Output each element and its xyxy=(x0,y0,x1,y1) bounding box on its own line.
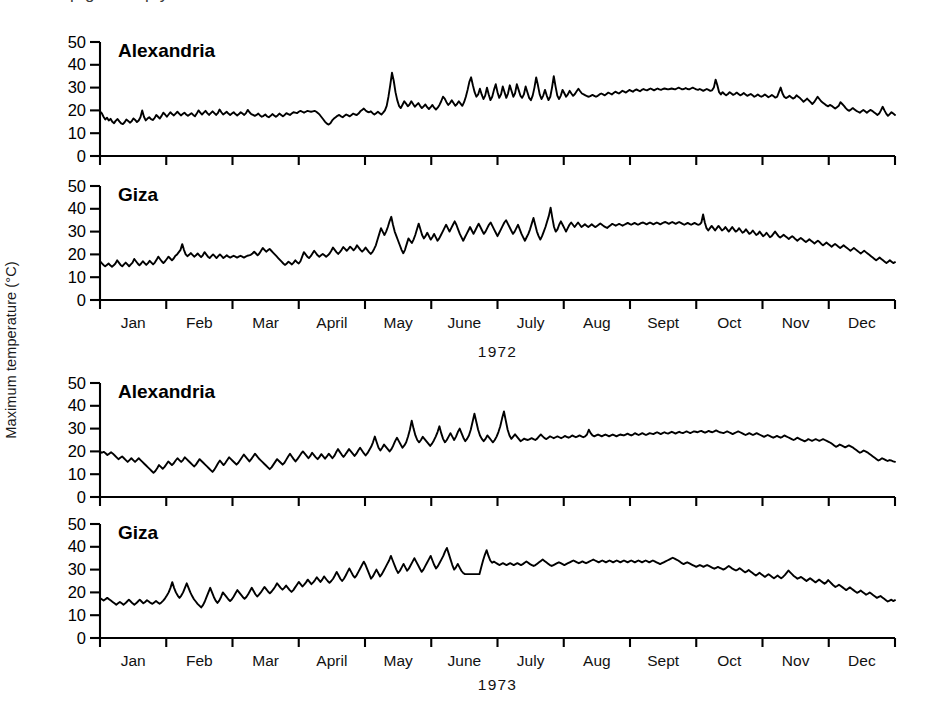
y-tick-label: 0 xyxy=(77,488,86,506)
y-tick-label: 20 xyxy=(68,583,86,601)
x-tick-label-may: May xyxy=(383,652,413,669)
y-tick-label: 30 xyxy=(68,222,86,240)
y-tick-label: 20 xyxy=(68,442,86,460)
y-tick-label: 0 xyxy=(77,629,86,647)
x-tick-label-nov: Nov xyxy=(782,314,810,331)
series-line-giza-1972 xyxy=(100,208,895,267)
panel-giza-1972: 50403020100JanFebMarAprilMayJuneJulyAugS… xyxy=(68,177,895,332)
x-tick-label-june: June xyxy=(448,314,482,331)
y-tick-label: 10 xyxy=(68,124,86,142)
x-tick-label-mar: Mar xyxy=(252,652,279,669)
x-tick-label-june: June xyxy=(448,652,482,669)
y-tick-label: 40 xyxy=(68,55,86,73)
y-tick-label: 50 xyxy=(68,374,86,392)
y-tick-label: 40 xyxy=(68,396,86,414)
x-tick-label-aug: Aug xyxy=(583,652,611,669)
x-tick-label-dec: Dec xyxy=(848,652,876,669)
y-tick-label: 30 xyxy=(68,419,86,437)
x-tick-label-sept: Sept xyxy=(647,652,680,669)
series-line-giza-1973 xyxy=(100,548,895,608)
temperature-time-series-figure: 50403020100Alexandria50403020100JanFebMa… xyxy=(0,0,932,723)
series-line-alexandria-1972 xyxy=(100,73,895,125)
y-tick-label: 20 xyxy=(68,245,86,263)
chart-svg: 50403020100Alexandria50403020100JanFebMa… xyxy=(0,0,932,723)
x-tick-label-sept: Sept xyxy=(647,314,680,331)
y-tick-label: 30 xyxy=(68,560,86,578)
x-tick-label-july: July xyxy=(517,314,545,331)
x-tick-label-oct: Oct xyxy=(717,652,742,669)
year-label-1973: 1973 xyxy=(478,676,517,693)
x-tick-label-april: April xyxy=(316,652,347,669)
x-tick-label-feb: Feb xyxy=(186,652,213,669)
y-tick-label: 10 xyxy=(68,268,86,286)
y-tick-label: 40 xyxy=(68,199,86,217)
y-tick-label: 0 xyxy=(77,147,86,165)
panel-giza-1973: 50403020100JanFebMarAprilMayJuneJulyAugS… xyxy=(68,515,895,670)
x-tick-label-mar: Mar xyxy=(252,314,279,331)
y-tick-label: 50 xyxy=(68,515,86,533)
x-tick-label-april: April xyxy=(316,314,347,331)
y-tick-label: 50 xyxy=(68,177,86,195)
panel-title-giza-1973: Giza xyxy=(118,522,159,543)
panel-title-giza-1972: Giza xyxy=(118,184,159,205)
panel-alexandria-1972: 50403020100Alexandria xyxy=(68,33,895,166)
x-tick-label-jan: Jan xyxy=(121,652,146,669)
x-tick-label-nov: Nov xyxy=(782,652,810,669)
x-tick-label-oct: Oct xyxy=(717,314,742,331)
year-label-1972: 1972 xyxy=(478,343,517,360)
x-tick-label-aug: Aug xyxy=(583,314,611,331)
y-tick-label: 10 xyxy=(68,465,86,483)
x-tick-label-feb: Feb xyxy=(186,314,213,331)
y-tick-label: 10 xyxy=(68,606,86,624)
panel-title-alexandria-1972: Alexandria xyxy=(118,40,216,61)
y-tick-label: 40 xyxy=(68,537,86,555)
x-tick-label-may: May xyxy=(383,314,413,331)
panel-title-alexandria-1973: Alexandria xyxy=(118,381,216,402)
panel-alexandria-1973: 50403020100Alexandria xyxy=(68,374,895,507)
y-tick-label: 20 xyxy=(68,101,86,119)
x-tick-label-jan: Jan xyxy=(121,314,146,331)
y-tick-label: 30 xyxy=(68,78,86,96)
series-line-alexandria-1973 xyxy=(100,412,895,473)
y-tick-label: 0 xyxy=(77,291,86,309)
x-tick-label-july: July xyxy=(517,652,545,669)
x-tick-label-dec: Dec xyxy=(848,314,876,331)
y-tick-label: 50 xyxy=(68,33,86,51)
